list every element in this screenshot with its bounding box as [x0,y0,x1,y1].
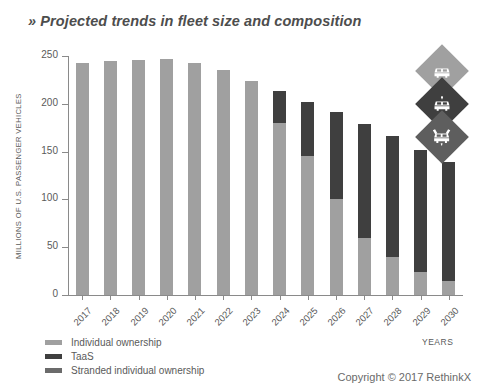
y-tick-label: 100 [41,192,58,203]
x-tick-label-2017: 2017 [71,305,94,328]
badge-column [415,52,469,151]
segment-individual [414,272,427,295]
x-tick-label-2020: 2020 [156,305,179,328]
legend-item-2[interactable]: Stranded individual ownership [45,363,204,377]
segment-taas [414,150,427,272]
bar-2020[interactable] [160,59,173,295]
chart-legend: Individual ownershipTaaSStranded individ… [45,335,204,377]
segment-taas [273,91,286,123]
segment-taas [301,102,314,156]
page-title: » Projected trends in fleet size and com… [28,13,362,29]
bar-2021[interactable] [188,63,201,295]
x-tick-2019 [139,295,140,300]
bar-2030[interactable] [442,162,455,295]
y-tick-label: 200 [41,97,58,108]
x-tick-2024 [280,295,281,300]
legend-swatch-icon [45,354,62,359]
chart-plot-area: 050100150200250 201720182019202020212022… [68,56,463,296]
segment-individual [132,60,145,295]
x-tick-label-2025: 2025 [297,305,320,328]
segment-taas [442,162,455,281]
legend-swatch-icon [45,368,62,373]
x-tick-2018 [110,295,111,300]
x-tick-label-2029: 2029 [410,305,433,328]
legend-swatch-icon [45,340,62,345]
segment-individual [273,123,286,295]
x-tick-2022 [223,295,224,300]
legend-label: Individual ownership [71,337,162,348]
copyright-text: Copyright © 2017 RethinkX [338,371,471,383]
x-tick-label-2026: 2026 [325,305,348,328]
x-tick-label-2018: 2018 [99,305,122,328]
x-tick-2023 [251,295,252,300]
x-tick-2021 [195,295,196,300]
y-tick-250: 250 [62,56,68,57]
x-tick-2030 [449,295,450,300]
x-tick-2027 [364,295,365,300]
segment-individual [188,63,201,295]
legend-item-1[interactable]: TaaS [45,349,204,363]
segment-individual [160,59,173,295]
bar-2024[interactable] [273,91,286,295]
x-tick-label-2023: 2023 [240,305,263,328]
x-tick-label-2027: 2027 [353,305,376,328]
segment-individual [104,61,117,295]
x-tick-2026 [336,295,337,300]
x-axis-title: YEARS [422,337,453,347]
x-tick-2025 [308,295,309,300]
x-axis-line [68,295,463,296]
segment-taas [386,136,399,256]
y-tick-label: 50 [47,240,58,251]
bar-2025[interactable] [301,102,314,295]
y-axis-line [68,56,69,296]
y-tick-0: 0 [62,295,68,296]
segment-individual [386,257,399,295]
bar-2017[interactable] [76,63,89,295]
segment-individual [217,70,230,295]
bar-2023[interactable] [245,81,258,295]
legend-label: TaaS [71,351,94,362]
y-tick-label: 150 [41,145,58,156]
x-tick-label-2024: 2024 [269,305,292,328]
x-tick-label-2028: 2028 [382,305,405,328]
segment-individual [358,238,371,295]
x-tick-label-2022: 2022 [212,305,235,328]
x-tick-2028 [392,295,393,300]
bar-2018[interactable] [104,61,117,295]
x-tick-2017 [82,295,83,300]
x-tick-2029 [421,295,422,300]
segment-taas [330,112,343,199]
bar-2029[interactable] [414,150,427,295]
bar-2027[interactable] [358,124,371,295]
segment-taas [358,124,371,238]
y-tick-100: 100 [62,199,68,200]
x-tick-label-2019: 2019 [128,305,151,328]
segment-individual [245,81,258,295]
y-axis-title: MILLIONS OF U.S. PASSENGER VEHICLES [11,56,25,296]
x-tick-label-2030: 2030 [438,305,461,328]
y-tick-label: 0 [52,288,58,299]
x-tick-2020 [167,295,168,300]
segment-individual [330,199,343,295]
y-tick-150: 150 [62,152,68,153]
segment-individual [301,156,314,295]
bar-2022[interactable] [217,70,230,295]
segment-individual [76,63,89,295]
segment-individual [442,281,455,295]
legend-label: Stranded individual ownership [71,365,204,376]
y-tick-label: 250 [41,49,58,60]
legend-item-0[interactable]: Individual ownership [45,335,204,349]
bar-2028[interactable] [386,136,399,295]
x-tick-label-2021: 2021 [184,305,207,328]
y-tick-50: 50 [62,247,68,248]
bar-2019[interactable] [132,60,145,295]
stranded-car-icon [432,129,452,146]
y-tick-200: 200 [62,104,68,105]
bar-2026[interactable] [330,112,343,295]
